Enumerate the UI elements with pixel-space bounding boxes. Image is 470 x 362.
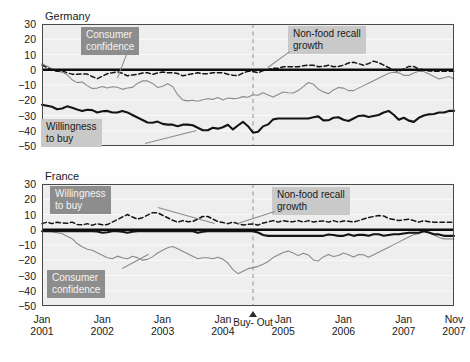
- y-tick-label: −40: [10, 286, 36, 297]
- x-tick-year: 2001: [19, 326, 65, 338]
- x-tick-month: Nov: [431, 314, 470, 326]
- x-tick-month: Jan: [381, 314, 427, 326]
- non-food-recall-growth-label: Non-food recall growth: [272, 187, 350, 215]
- x-tick-year: 2006: [320, 326, 366, 338]
- y-tick-label: 30: [10, 179, 36, 190]
- y-tick-label: 0: [10, 225, 36, 236]
- y-tick-label: −10: [10, 240, 36, 251]
- y-tick-label: 30: [10, 19, 36, 30]
- x-tick-label: Jan2003: [140, 314, 186, 337]
- y-tick-label: −40: [10, 126, 36, 137]
- x-tick-month: Jan: [19, 314, 65, 326]
- y-tick-label: 10: [10, 50, 36, 61]
- panel-france: France 3020100−10−20−30−40−50 Willingnes…: [0, 162, 463, 312]
- y-tick-label: −50: [10, 141, 36, 152]
- willingness-to-buy-label: Willingness to buy: [41, 119, 102, 147]
- y-tick-label: −50: [10, 301, 36, 312]
- panel-title-france: France: [45, 171, 79, 182]
- y-tick-label: 0: [10, 65, 36, 76]
- buy-out-marker: Buy- Out: [233, 311, 273, 328]
- y-tick-label: −30: [10, 271, 36, 282]
- buy-out-label-line1: Buy-: [233, 317, 254, 328]
- willingness-to-buy-label: Willingness to buy: [50, 186, 111, 214]
- x-tick-year: 2002: [79, 326, 125, 338]
- x-tick-month: Jan: [140, 314, 186, 326]
- x-tick-year: 2007: [431, 326, 470, 338]
- x-tick-month: Jan: [320, 314, 366, 326]
- x-tick-label: Jan2006: [320, 314, 366, 337]
- panel-title-germany: Germany: [45, 11, 90, 22]
- panel-germany: Germany 3020100−10−20−30−40−50 Consumer …: [0, 0, 463, 165]
- x-tick-label: Nov2007: [431, 314, 470, 337]
- x-tick-label: Jan2002: [79, 314, 125, 337]
- x-tick-year: 2003: [140, 326, 186, 338]
- x-tick-label: Jan2001: [19, 314, 65, 337]
- y-tick-label: −30: [10, 111, 36, 122]
- y-tick-label: −20: [10, 95, 36, 106]
- buy-out-label-line2: Out: [257, 317, 273, 328]
- consumer-confidence-label: Consumer confidence: [81, 27, 139, 55]
- y-tick-label: −10: [10, 80, 36, 91]
- x-tick-label: Jan2007: [381, 314, 427, 337]
- x-tick-month: Jan: [79, 314, 125, 326]
- y-tick-label: 10: [10, 210, 36, 221]
- non-food-recall-growth-label: Non-food recall growth: [288, 26, 366, 54]
- y-tick-label: 20: [10, 34, 36, 45]
- x-tick-year: 2007: [381, 326, 427, 338]
- y-tick-label: 20: [10, 194, 36, 205]
- consumer-confidence-label: Consumer confidence: [47, 270, 105, 298]
- y-tick-label: −20: [10, 255, 36, 266]
